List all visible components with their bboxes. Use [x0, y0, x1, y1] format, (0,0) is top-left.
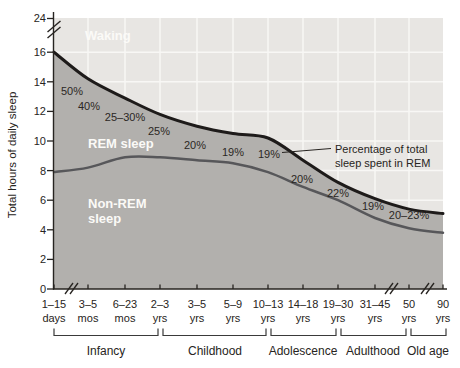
rem-percent-label: 19% [222, 146, 244, 158]
y-tick-label: 6 [40, 194, 46, 206]
x-tick-label-range: 2–3 [151, 298, 169, 310]
x-tick-label-unit: days [42, 312, 66, 324]
y-axis-top-tick-label: 24 [34, 12, 46, 24]
sleep-lifespan-chart: 16141210864201–15days3–5mos6–23mos2–3yrs… [0, 0, 460, 368]
chart-generated-layer: 16141210864201–15days3–5mos6–23mos2–3yrs… [34, 12, 451, 358]
rem-percent-label: 25–30% [105, 111, 146, 123]
y-tick-label: 12 [34, 105, 46, 117]
rem-percent-label: 22% [327, 187, 349, 199]
life-stage-bracket [411, 329, 446, 336]
rem-percent-label: 20–23% [389, 209, 430, 221]
x-tick-label-unit: yrs [296, 312, 311, 324]
x-tick-label-range: 10–13 [253, 298, 284, 310]
x-tick-label-range: 1–15 [42, 298, 66, 310]
x-tick-label-range: 6–23 [113, 298, 137, 310]
y-tick-label: 4 [40, 224, 46, 236]
rem-percent-label: 19% [362, 200, 384, 212]
rem-percent-label: 19% [258, 148, 280, 160]
y-axis-title: Total hours of daily sleep [6, 92, 18, 219]
y-tick-label: 2 [40, 253, 46, 265]
x-tick-label-range: 3–5 [79, 298, 97, 310]
annotation-line2: sleep spent in REM [335, 157, 430, 169]
x-tick-label-unit: yrs [331, 312, 346, 324]
sleep-lifespan-figure: 16141210864201–15days3–5mos6–23mos2–3yrs… [0, 0, 460, 368]
rem-percent-label: 50% [61, 85, 83, 97]
x-tick-label-unit: yrs [402, 312, 417, 324]
life-stage-label: Old age [407, 344, 449, 358]
x-tick-label-unit: yrs [226, 312, 241, 324]
x-tick-label-range: 3–5 [188, 298, 206, 310]
rem-percent-label: 40% [78, 100, 100, 112]
x-tick-label-unit: yrs [261, 312, 276, 324]
x-tick-label-unit: yrs [153, 312, 168, 324]
life-stage-bracket [271, 329, 336, 336]
y-tick-label: 14 [34, 76, 46, 88]
life-stage-bracket [163, 329, 266, 336]
x-tick-label-range: 31–45 [360, 298, 391, 310]
x-tick-label-unit: mos [115, 312, 136, 324]
rem-percent-label: 20% [291, 173, 313, 185]
life-stage-label: Childhood [188, 344, 242, 358]
y-tick-label: 10 [34, 135, 46, 147]
x-tick-label-range: 19–30 [323, 298, 354, 310]
life-stage-bracket [341, 329, 406, 336]
x-tick-label-unit: yrs [368, 312, 383, 324]
y-tick-label: 8 [40, 165, 46, 177]
waking-area-label: Waking [85, 28, 131, 43]
x-tick-label-unit: mos [78, 312, 99, 324]
y-tick-label: 0 [40, 283, 46, 295]
life-stage-label: Adulthood [346, 344, 400, 358]
life-stage-bracket [54, 329, 158, 336]
rem-percent-label: 20% [184, 139, 206, 151]
annotation-line1: Percentage of total [335, 143, 427, 155]
x-tick-label-range: 5–9 [224, 298, 242, 310]
y-tick-label: 16 [34, 46, 46, 58]
nonrem-area-label-line2: sleep [88, 211, 121, 226]
x-tick-label-range: 14–18 [288, 298, 319, 310]
life-stage-label: Adolescence [269, 344, 338, 358]
x-tick-label-unit: yrs [436, 312, 451, 324]
x-tick-label-unit: yrs [190, 312, 205, 324]
life-stage-label: Infancy [87, 344, 126, 358]
nonrem-area-label-line1: Non-REM [88, 196, 147, 211]
rem-area-label: REM sleep [88, 136, 154, 151]
x-tick-label-range: 90 [437, 298, 449, 310]
x-tick-label-range: 50 [403, 298, 415, 310]
